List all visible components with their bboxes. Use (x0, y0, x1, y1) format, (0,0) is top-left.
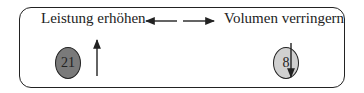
arrows-layer (0, 0, 364, 93)
